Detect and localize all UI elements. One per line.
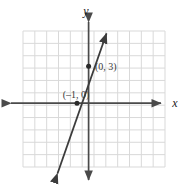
point-marker-y-intercept xyxy=(86,64,91,69)
grid-lines xyxy=(23,31,165,167)
label-y-intercept: (0, 3) xyxy=(95,61,117,73)
x-axis-label: x xyxy=(171,96,178,110)
graph-canvas: y x (0, 3) (–1, 0) xyxy=(0,0,191,187)
point-marker-x-intercept xyxy=(75,101,80,106)
label-x-intercept: (–1, 0) xyxy=(63,89,90,101)
y-axis-label: y xyxy=(82,4,89,18)
coordinate-plane-figure: y x (0, 3) (–1, 0) xyxy=(0,0,191,187)
